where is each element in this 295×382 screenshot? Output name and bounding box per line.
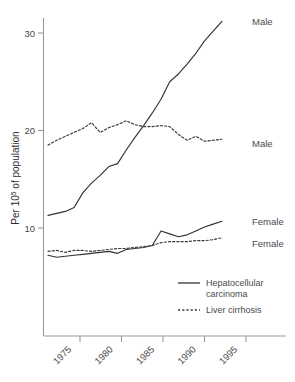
- y-axis-title-base: Per 10: [10, 195, 21, 225]
- series-end-labels: Male Male Female Female: [252, 16, 284, 249]
- series-end-label-cirrhosis-female: Female: [252, 238, 284, 249]
- chart-legend: Hepatocellular carcinoma Liver cirrhosis: [178, 278, 264, 315]
- y-tick-label-20: 20: [24, 125, 35, 136]
- svg-text:Per 105 of population: Per 105 of population: [10, 131, 22, 224]
- series-line-2: [48, 221, 222, 257]
- x-ticks: 1975 1980 1985 1990 1995: [51, 336, 246, 366]
- series-line-0: [48, 21, 222, 215]
- line-chart: 30 20 10 1975 1980 1985 1990 1995 Per 10…: [0, 0, 295, 382]
- series-end-label-cirrhosis-male: Male: [252, 138, 273, 149]
- legend-label-liver-cirrhosis: Liver cirrhosis: [206, 305, 262, 315]
- series-layer: [48, 21, 222, 257]
- series-end-label-hcc-male: Male: [252, 16, 273, 27]
- y-axis-title: Per 105 of population: [10, 131, 22, 224]
- series-line-3: [48, 238, 222, 253]
- x-tick-label-1985: 1985: [134, 344, 157, 367]
- legend-label-hepatocellular-carcinoma-line2: carcinoma: [206, 289, 248, 299]
- series-end-label-hcc-female: Female: [252, 216, 284, 227]
- series-line-1: [48, 121, 222, 145]
- legend-label-hepatocellular-carcinoma-line1: Hepatocellular: [206, 278, 264, 288]
- x-tick-label-1995: 1995: [217, 344, 240, 367]
- x-tick-label-1980: 1980: [92, 344, 115, 367]
- x-tick-label-1975: 1975: [51, 344, 74, 367]
- y-axis-title-tail: of population: [10, 131, 21, 191]
- chart-figure: 30 20 10 1975 1980 1985 1990 1995 Per 10…: [0, 0, 295, 382]
- y-tick-label-10: 10: [24, 223, 35, 234]
- x-tick-label-1990: 1990: [175, 344, 198, 367]
- y-tick-label-30: 30: [24, 28, 35, 39]
- y-ticks: 30 20 10: [24, 28, 43, 234]
